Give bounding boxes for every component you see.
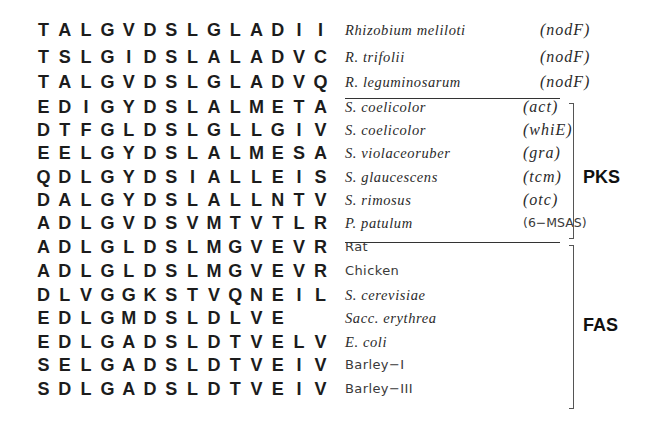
- residue: L: [289, 330, 310, 354]
- organism-name: S. cerevisiae: [345, 284, 426, 306]
- residue: G: [97, 235, 118, 259]
- residue: L: [76, 165, 97, 189]
- residue: M: [203, 259, 224, 283]
- residue: V: [310, 353, 331, 377]
- gene-name: (gra): [523, 142, 561, 164]
- residue: T: [225, 330, 246, 354]
- residue: I: [289, 165, 310, 189]
- residue: L: [76, 18, 97, 42]
- residue: L: [76, 235, 97, 259]
- residue: D: [140, 211, 161, 235]
- residue: T: [267, 211, 288, 235]
- gene-name: (otc): [523, 189, 558, 211]
- organism-name: S. glaucescens: [345, 166, 438, 188]
- residue: G: [97, 377, 118, 401]
- gene-name: (nodF): [540, 46, 590, 68]
- residue: G: [97, 141, 118, 165]
- residue: G: [203, 18, 224, 42]
- residue: L: [246, 188, 267, 212]
- residue: D: [54, 330, 75, 354]
- residue: G: [203, 118, 224, 142]
- organism-name: Chicken: [345, 260, 399, 282]
- residue: L: [225, 95, 246, 119]
- residue: T: [54, 118, 75, 142]
- residue: I: [289, 18, 310, 42]
- organism-label: E. coli: [345, 331, 565, 353]
- residue: V: [76, 283, 97, 307]
- residue: L: [182, 141, 203, 165]
- residue: D: [54, 377, 75, 401]
- residue: E: [33, 330, 54, 354]
- residue: A: [33, 211, 54, 235]
- residue: L: [225, 70, 246, 94]
- residue: D: [140, 377, 161, 401]
- residue: D: [140, 18, 161, 42]
- residue: L: [182, 45, 203, 69]
- organism-label: Barley−III: [345, 378, 565, 400]
- residue: V: [246, 235, 267, 259]
- residue: A: [54, 70, 75, 94]
- residue: L: [182, 70, 203, 94]
- residue: D: [54, 95, 75, 119]
- residue: N: [267, 188, 288, 212]
- residue: D: [33, 283, 54, 307]
- residue: E: [267, 235, 288, 259]
- residue: G: [97, 283, 118, 307]
- residue: E: [33, 141, 54, 165]
- residue: L: [54, 283, 75, 307]
- residue: D: [140, 353, 161, 377]
- residue: R: [310, 235, 331, 259]
- alignment-row: QDLGYDSIALLEIS: [0, 165, 330, 189]
- alignment-row: SELGADSLDTVEIV: [0, 353, 330, 377]
- residue: L: [225, 188, 246, 212]
- residue: A: [118, 353, 139, 377]
- gene-name: (act): [523, 96, 558, 118]
- residue: D: [140, 70, 161, 94]
- gene-name: (whiE): [523, 119, 573, 141]
- residue: I: [289, 283, 310, 307]
- residue: E: [267, 259, 288, 283]
- residue: D: [140, 330, 161, 354]
- residue: V: [246, 211, 267, 235]
- residue: D: [140, 95, 161, 119]
- residue: L: [76, 353, 97, 377]
- residue: A: [54, 188, 75, 212]
- residue: D: [54, 259, 75, 283]
- residue: L: [182, 330, 203, 354]
- residue: V: [289, 259, 310, 283]
- organism-name: S. coelicolor: [345, 119, 426, 141]
- residue: N: [246, 283, 267, 307]
- residue: S: [161, 70, 182, 94]
- residue: A: [310, 95, 331, 119]
- residue: V: [118, 18, 139, 42]
- residue: L: [225, 306, 246, 330]
- organism-name: Rhizobium meliloti: [345, 19, 466, 41]
- residue: S: [161, 95, 182, 119]
- residue: D: [140, 141, 161, 165]
- residue: A: [246, 18, 267, 42]
- residue: E: [267, 283, 288, 307]
- alignment-row: EDLGMDSLDLVE: [0, 306, 330, 330]
- residue: T: [225, 353, 246, 377]
- residue: G: [97, 330, 118, 354]
- alignment-row: TSLGIDSLALADVC: [0, 45, 330, 69]
- residue: A: [203, 188, 224, 212]
- residue: L: [76, 377, 97, 401]
- organism-label: Barley−I: [345, 354, 565, 376]
- residue: A: [246, 70, 267, 94]
- residue: M: [246, 95, 267, 119]
- organism-label: S. glaucescens(tcm): [345, 166, 565, 188]
- residue: L: [225, 141, 246, 165]
- residue: G: [267, 118, 288, 142]
- residue: D: [140, 165, 161, 189]
- residue: G: [225, 235, 246, 259]
- gene-name: (6−MSAS): [523, 212, 587, 234]
- residue: V: [310, 188, 331, 212]
- separator-rule-pks: [345, 242, 560, 243]
- residue: S: [161, 211, 182, 235]
- residue: D: [54, 235, 75, 259]
- residue: D: [140, 235, 161, 259]
- organism-label: P. patulum(6−MSAS): [345, 212, 565, 234]
- organism-name: R. trifolii: [345, 46, 405, 68]
- residue: G: [97, 259, 118, 283]
